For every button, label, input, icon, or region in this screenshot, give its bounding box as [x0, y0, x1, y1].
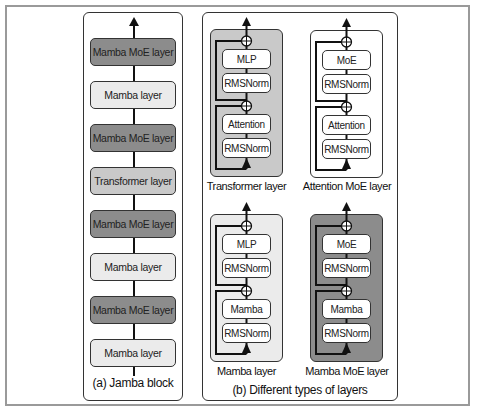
- layer-label: Mamba layer: [104, 89, 161, 101]
- sublayer-mamba: Mamba: [222, 299, 271, 319]
- jamba-layer-8: Mamba layer: [90, 339, 176, 367]
- jamba-layer-6: Mamba layer: [90, 253, 176, 281]
- layer-label: Transformer layer: [94, 175, 171, 187]
- sublayer-rmsnorm: RMSNorm: [222, 323, 271, 343]
- sublayer-mlp: MLP: [222, 234, 271, 254]
- mamba-layer-caption: Mamba layer: [203, 365, 290, 377]
- mamba-moe-layer-caption: Mamba MoE layer: [299, 365, 395, 377]
- sublayer-rmsnorm: RMSNorm: [222, 73, 271, 93]
- sublayer-rmsnorm: RMSNorm: [322, 74, 371, 94]
- jamba-block-panel: Mamba MoE layer Mamba layer Mamba MoE la…: [83, 12, 183, 401]
- jamba-layer-1: Mamba MoE layer: [90, 38, 176, 66]
- sublayer-mlp: MLP: [222, 49, 271, 69]
- jamba-layer-5: Mamba MoE layer: [90, 210, 176, 238]
- layer-types-caption: (b) Different types of layers: [203, 383, 397, 397]
- sublayer-rmsnorm: RMSNorm: [322, 258, 371, 278]
- layer-label: Mamba layer: [104, 261, 161, 273]
- layer-label: Mamba MoE layer: [93, 132, 174, 144]
- layer-label: Mamba MoE layer: [93, 46, 174, 58]
- layer-label: Mamba MoE layer: [93, 218, 174, 230]
- attention-moe-layer-caption: Attention MoE layer: [299, 180, 395, 192]
- output-arrow-icon: [129, 17, 139, 26]
- layer-label: Mamba MoE layer: [93, 304, 174, 316]
- jamba-layer-3: Mamba MoE layer: [90, 124, 176, 152]
- sublayer-rmsnorm: RMSNorm: [222, 138, 271, 158]
- data-flow-line: [133, 23, 135, 385]
- sublayer-mamba: Mamba: [322, 299, 371, 319]
- layer-label: Mamba layer: [104, 347, 161, 359]
- transformer-layer-caption: Transformer layer: [203, 180, 290, 192]
- sublayer-attention: Attention: [222, 114, 271, 134]
- jamba-layer-7: Mamba MoE layer: [90, 296, 176, 324]
- sublayer-rmsnorm: RMSNorm: [322, 323, 371, 343]
- sublayer-attention: Attention: [322, 115, 371, 135]
- sublayer-moe: MoE: [322, 234, 371, 254]
- sublayer-rmsnorm: RMSNorm: [222, 258, 271, 278]
- jamba-layer-2: Mamba layer: [90, 81, 176, 109]
- sublayer-moe: MoE: [322, 50, 371, 70]
- jamba-layer-4: Transformer layer: [90, 167, 176, 195]
- layer-types-panel: Transformer layer Attention MoE layer Ma…: [202, 12, 398, 401]
- jamba-block-caption: (a) Jamba block: [84, 376, 182, 390]
- sublayer-rmsnorm: RMSNorm: [322, 139, 371, 159]
